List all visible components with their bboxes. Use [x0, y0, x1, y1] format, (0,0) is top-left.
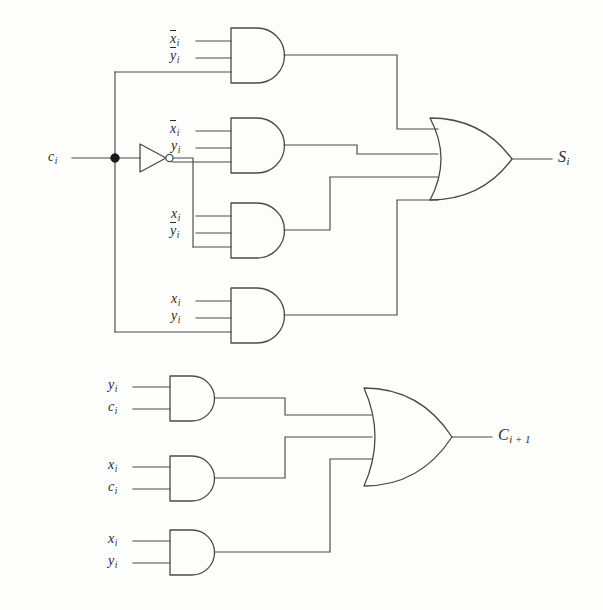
wire-and3-out — [284, 177, 438, 230]
label-carry1-in1: yi — [108, 377, 117, 394]
label-and1-in2: yi — [170, 48, 179, 65]
label-sum-output: Si — [558, 148, 570, 167]
and-gate-sum-4 — [231, 288, 285, 343]
label-and3-in1: xi — [171, 206, 180, 223]
and-gate-sum-3 — [231, 203, 285, 258]
wire-and2-out — [284, 145, 438, 154]
and-gate-carry-2 — [170, 456, 215, 501]
junction-dot-ci — [111, 154, 119, 162]
label-carry1-in2: ci — [108, 399, 117, 416]
label-carry-output: Ci + 1 — [498, 426, 530, 445]
label-carry3-in2: yi — [108, 553, 117, 570]
wire-and4-out — [284, 200, 438, 315]
and-gate-carry-1 — [170, 376, 215, 421]
or-gate-sum — [430, 118, 512, 200]
label-and4-in2: yi — [171, 308, 180, 325]
and-gate-sum-1 — [231, 28, 285, 83]
and-gate-sum-2 — [231, 118, 285, 173]
wire-c2-out — [215, 437, 372, 478]
label-carry2-in1: xi — [108, 457, 117, 474]
label-and2-in2: yi — [171, 138, 180, 155]
label-carry2-in2: ci — [108, 479, 117, 496]
label-and2-in1: xi — [170, 121, 179, 138]
wire-and1-out — [284, 55, 438, 129]
label-carry-in: ci — [48, 149, 57, 166]
or-gate-carry — [364, 388, 452, 486]
not-gate-ci — [140, 144, 173, 172]
label-carry3-in1: xi — [108, 531, 117, 548]
label-and4-in1: xi — [171, 291, 180, 308]
circuit-svg — [0, 0, 603, 610]
wire-c1-out — [215, 398, 372, 415]
wire-c3-out — [215, 459, 372, 552]
label-and3-in2: yi — [170, 223, 179, 240]
not-gate-bubble-icon — [166, 154, 173, 161]
and-gate-carry-3 — [170, 530, 215, 575]
logic-circuit-diagram: ci xi yi xi yi xi yi xi yi Si yi ci xi c… — [0, 0, 603, 610]
label-and1-in1: xi — [170, 31, 179, 48]
